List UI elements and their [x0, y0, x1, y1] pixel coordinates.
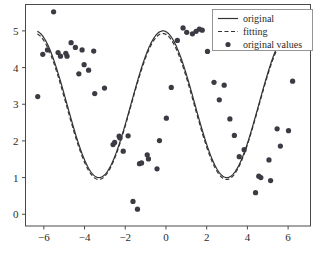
legend-swatch-marker-dot [225, 42, 230, 47]
data-point [268, 178, 273, 183]
data-point [73, 45, 78, 50]
data-point [130, 199, 135, 204]
y-tick-label: 0 [13, 208, 19, 220]
data-point [274, 126, 279, 131]
data-point [200, 28, 205, 33]
data-point [237, 154, 242, 159]
x-tick-label: −4 [79, 231, 91, 243]
data-point [278, 143, 283, 148]
data-point [117, 135, 122, 140]
data-point [180, 25, 185, 30]
x-tick-label: −6 [38, 231, 50, 243]
data-point [76, 71, 81, 76]
data-point [154, 166, 159, 171]
y-tick-label: 1 [13, 172, 19, 184]
fitting-curve [37, 33, 294, 179]
data-point [242, 147, 247, 152]
data-point [58, 54, 63, 59]
data-point [157, 138, 162, 143]
data-point [112, 140, 117, 145]
x-tick-label: 4 [245, 231, 251, 243]
data-point [40, 52, 45, 57]
data-point [211, 80, 216, 85]
data-point [135, 207, 140, 212]
data-point [184, 30, 189, 35]
data-point [217, 97, 222, 102]
original-curve [37, 31, 294, 178]
legend-label-original: original [243, 13, 274, 24]
x-axis-tick-labels: −6−4−20246 [38, 231, 291, 243]
data-point [68, 40, 73, 45]
data-point [258, 175, 263, 180]
data-point [45, 47, 50, 52]
data-point [121, 149, 126, 154]
data-point [266, 157, 271, 162]
data-point [286, 128, 291, 133]
chart-legend: original fitting original values [213, 10, 313, 51]
data-point [205, 49, 210, 54]
y-axis-ticks [22, 31, 26, 214]
data-point [92, 91, 97, 96]
y-tick-label: 5 [13, 25, 19, 37]
y-axis-tick-labels: 012345 [13, 25, 19, 220]
data-point [227, 116, 232, 121]
data-point [169, 85, 174, 90]
data-point [146, 156, 151, 161]
data-point [79, 47, 84, 52]
x-axis-ticks [44, 226, 288, 230]
y-tick-label: 2 [13, 135, 19, 147]
data-point [125, 133, 130, 138]
legend-label-fitting: fitting [243, 26, 267, 37]
data-point [102, 85, 107, 90]
x-tick-label: 6 [285, 231, 291, 243]
data-point [139, 160, 144, 165]
data-point [64, 54, 69, 59]
y-tick-label: 3 [13, 98, 19, 110]
data-point [86, 68, 91, 73]
data-point [253, 190, 258, 195]
data-point [35, 94, 40, 99]
data-point [82, 62, 87, 67]
y-tick-label: 4 [13, 62, 19, 74]
legend-label-original-values: original values [243, 39, 302, 50]
x-tick-label: 2 [204, 231, 210, 243]
x-tick-label: 0 [163, 231, 169, 243]
data-point [232, 133, 237, 138]
chart-plot: −6−4−20246 012345 original fitting origi… [0, 0, 320, 263]
data-point [91, 48, 96, 53]
x-tick-label: −2 [119, 231, 131, 243]
data-point [51, 9, 56, 14]
figure-canvas: −6−4−20246 012345 original fitting origi… [0, 0, 320, 263]
data-point [164, 116, 169, 121]
data-point [175, 38, 180, 43]
data-point [222, 83, 227, 88]
data-point [290, 79, 295, 84]
